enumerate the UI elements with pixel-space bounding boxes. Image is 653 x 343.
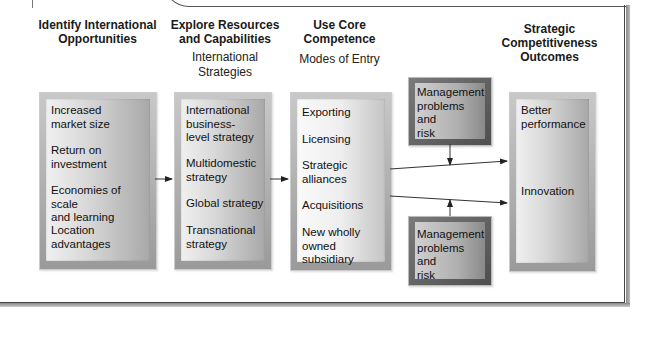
moderator-box-top: Management problems and risk	[408, 77, 492, 146]
frame-border-top	[163, 0, 629, 7]
box-international-strategies: International business- level strategy M…	[174, 92, 272, 270]
frame-border-bottom	[0, 302, 625, 303]
box-inner: Increased market size Return on investme…	[46, 99, 150, 261]
moderator-top-label: Management problems and risk	[417, 86, 485, 140]
item-exporting: Exporting	[302, 106, 351, 120]
item-increased-market-size: Increased market size	[51, 104, 110, 131]
box-inner: Management problems and risk	[415, 222, 485, 279]
frame-shadow-bottom	[0, 303, 630, 307]
box-identify-opportunities: Increased market size Return on investme…	[39, 92, 157, 270]
box-inner: Management problems and risk	[415, 83, 485, 139]
box-inner: Better performance Innovation	[516, 99, 589, 263]
item-transnational: Transnational strategy	[186, 224, 255, 251]
box-modes-of-entry: Exporting Licensing Strategic alliances …	[290, 92, 392, 271]
heading-explore-resources: Explore Resources and Capabilities	[165, 18, 285, 46]
subheading-modes-of-entry: Modes of Entry	[282, 52, 397, 67]
item-multidomestic: Multidomestic strategy	[186, 157, 256, 184]
item-return-on-investment: Return on investment	[51, 144, 107, 171]
box-strategic-outcomes: Better performance Innovation	[509, 92, 596, 272]
heading-use-core-competence: Use Core Competence	[282, 18, 397, 46]
item-economies-of-scale: Economies of scale and learning	[51, 184, 150, 225]
item-global-strategy: Global strategy	[186, 197, 263, 211]
item-location-advantages: Location advantages	[51, 224, 110, 251]
box-inner: International business- level strategy M…	[181, 99, 265, 261]
frame-border-right-lower	[624, 205, 625, 303]
item-better-performance: Better performance	[521, 104, 586, 131]
subheading-international-strategies: International Strategies	[165, 50, 285, 80]
moderator-bottom-label: Management problems and risk	[417, 228, 485, 282]
heading-strategic-outcomes: Strategic Competitiveness Outcomes	[487, 22, 612, 64]
frame-shadow-right-lower	[626, 205, 630, 307]
item-international-business-level: International business- level strategy	[186, 104, 254, 145]
item-acquisitions: Acquisitions	[302, 199, 363, 213]
moderator-box-bottom: Management problems and risk	[408, 216, 492, 286]
frame-border-left	[32, 0, 33, 8]
frame-border-right	[624, 5, 625, 210]
frame-shadow-right	[626, 5, 630, 210]
item-licensing: Licensing	[302, 133, 351, 147]
item-innovation: Innovation	[521, 185, 574, 199]
item-strategic-alliances: Strategic alliances	[302, 159, 347, 186]
item-new-wholly-owned-subsidiary: New wholly owned subsidiary	[302, 226, 385, 267]
heading-identify-opportunities: Identify International Opportunities	[30, 18, 165, 46]
box-inner: Exporting Licensing Strategic alliances …	[297, 99, 385, 262]
